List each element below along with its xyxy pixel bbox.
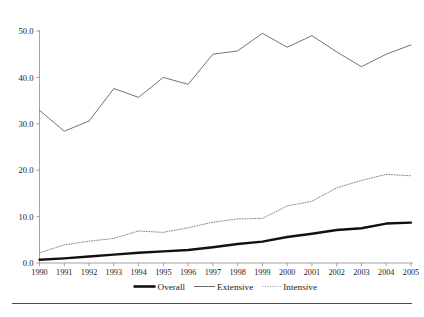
x-tick-label: 1992 [81, 268, 97, 277]
x-tick-label: 2001 [304, 268, 320, 277]
y-tick-label: 10.0 [18, 212, 33, 222]
legend-label-overall: Overall [158, 282, 186, 292]
x-tick-label: 2005 [403, 268, 419, 277]
series-line-overall [40, 223, 412, 260]
series-line-extensive [40, 33, 412, 131]
chart-figure: 0.010.020.030.040.050.0 1990199119921993… [0, 0, 424, 317]
y-axis: 0.010.020.030.040.050.0 [18, 26, 39, 268]
x-tick-label: 1990 [31, 268, 47, 277]
x-tick-label: 1997 [205, 268, 221, 277]
footer-divider [12, 303, 412, 304]
y-tick-label: 0.0 [23, 258, 34, 268]
data-series-group [40, 33, 412, 259]
y-tick-label: 20.0 [18, 165, 33, 175]
chart-legend: OverallExtensiveIntensive [134, 282, 317, 292]
legend-label-intensive: Intensive [283, 282, 317, 292]
y-axis-tick-labels: 0.010.020.030.040.050.0 [18, 26, 33, 268]
series-line-intensive [40, 174, 412, 252]
x-tick-label: 1994 [130, 268, 146, 277]
x-tick-label: 1991 [56, 268, 72, 277]
x-tick-label: 1999 [254, 268, 270, 277]
footnote-fragment [12, 310, 312, 317]
x-tick-label: 2000 [279, 268, 295, 277]
x-tick-label: 2003 [353, 268, 369, 277]
x-axis-tick-labels: 1990199119921993199419951996199719981999… [31, 268, 419, 277]
x-tick-label: 2002 [329, 268, 345, 277]
x-tick-label: 1998 [229, 268, 245, 277]
x-axis: 1990199119921993199419951996199719981999… [31, 263, 419, 277]
line-chart-canvas: 0.010.020.030.040.050.0 1990199119921993… [0, 0, 424, 317]
x-tick-label: 1995 [155, 268, 171, 277]
x-tick-label: 1996 [180, 268, 196, 277]
y-tick-label: 30.0 [18, 119, 33, 129]
y-tick-label: 50.0 [18, 26, 33, 36]
x-tick-label: 1993 [106, 268, 122, 277]
x-tick-label: 2004 [378, 268, 394, 277]
y-tick-label: 40.0 [18, 73, 33, 83]
x-axis-ticks [40, 263, 412, 266]
legend-label-extensive: Extensive [217, 282, 253, 292]
y-axis-ticks [36, 31, 39, 263]
